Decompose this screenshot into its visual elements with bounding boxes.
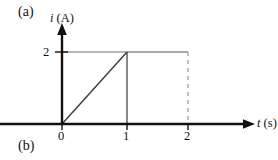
y-axis-unit: (A) bbox=[57, 11, 74, 25]
x-axis-unit: (s) bbox=[264, 116, 277, 130]
x-tick-label-2: 2 bbox=[184, 130, 190, 143]
panel-label-a: (a) bbox=[18, 5, 34, 19]
y-tick-label-2: 2 bbox=[43, 46, 49, 59]
chart-canvas bbox=[0, 0, 278, 160]
x-tick-label-0: 0 bbox=[58, 130, 64, 143]
panel-label-b: (b) bbox=[18, 139, 34, 153]
current-vs-time-figure: (a) (b) i (A) t (s) 2 0 1 2 bbox=[0, 0, 278, 160]
x-tick-label-1: 1 bbox=[123, 130, 129, 143]
x-axis-arrowhead bbox=[243, 119, 255, 129]
y-axis-title: i (A) bbox=[50, 12, 74, 25]
ramp-segment bbox=[62, 52, 127, 124]
x-axis-title: t (s) bbox=[257, 117, 277, 130]
